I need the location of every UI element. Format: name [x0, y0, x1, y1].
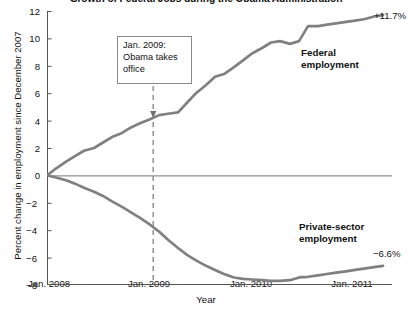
federal-series-label-line1: Federal [301, 47, 336, 58]
y-tick-neg4: −4 [11, 226, 37, 236]
private-series-label-line2: employment [299, 233, 357, 244]
private-series-label: Private-sector employment [299, 221, 364, 244]
annotation-line3: office [123, 64, 145, 74]
y-tick-neg6: −6 [11, 254, 37, 264]
y-tick-4: 4 [14, 117, 40, 127]
y-tick-10: 10 [14, 34, 40, 44]
federal-series-label: Federal employment [301, 47, 359, 70]
chart-title: Growth of Federal Jobs during the Obama … [0, 0, 412, 4]
y-tick-neg2: −2 [11, 199, 37, 209]
y-tick-12: 12 [14, 7, 40, 17]
federal-end-value-label: +11.7% [374, 10, 406, 21]
y-tick-2: 2 [14, 144, 40, 154]
private-end-value-label: −6.6% [373, 248, 400, 259]
x-axis-label: Year [0, 294, 412, 305]
y-tick-0: 0 [14, 171, 40, 181]
annotation-line2: Obama takes [123, 52, 178, 62]
federal-employment-line [47, 15, 383, 175]
annotation-line1: Jan. 2009: [123, 40, 166, 50]
federal-series-label-line2: employment [301, 59, 359, 70]
y-tick-6: 6 [14, 89, 40, 99]
y-axis-ticks [48, 12, 52, 285]
annotation-callout: Jan. 2009: Obama takes office [117, 36, 192, 84]
private-series-label-line1: Private-sector [299, 221, 364, 232]
y-tick-8: 8 [14, 62, 40, 72]
chart-figure: Growth of Federal Jobs during the Obama … [0, 0, 412, 311]
